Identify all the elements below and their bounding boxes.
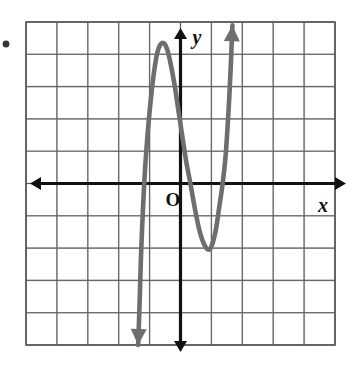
y-axis-arrow-down-icon (174, 341, 187, 352)
y-axis-label: y (191, 26, 202, 49)
y-axis-arrow-up-icon (174, 28, 187, 39)
axes (30, 28, 346, 352)
x-axis-label: x (317, 194, 328, 216)
x-axis-arrow-right-icon (335, 177, 346, 190)
function-curve (138, 25, 232, 345)
bullet-marker-icon (3, 41, 10, 48)
function-curve-group (131, 25, 240, 345)
curve-arrow-down-left-icon (131, 329, 147, 345)
origin-label: O (166, 189, 181, 210)
x-axis-arrow-left-icon (30, 177, 41, 190)
graph-figure: yxO (0, 0, 356, 368)
curve-arrow-up-right-icon (224, 25, 240, 41)
